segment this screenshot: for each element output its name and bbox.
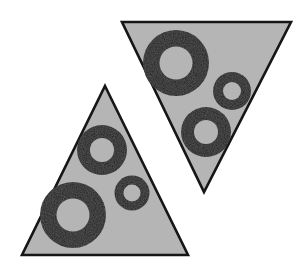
triangle-inverted-rings <box>0 0 300 280</box>
ring-inverted-medium[interactable] <box>0 0 300 280</box>
geometric-figure-svg <box>0 0 300 280</box>
figure-canvas <box>0 0 300 280</box>
triangle-inverted[interactable] <box>0 0 300 280</box>
